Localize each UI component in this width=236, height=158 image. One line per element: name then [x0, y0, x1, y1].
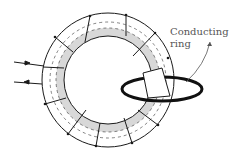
label-ring: ring [170, 39, 191, 49]
toroid-diagram [0, 0, 236, 158]
input-leads [14, 61, 44, 84]
label-conducting: Conducting [170, 27, 229, 37]
